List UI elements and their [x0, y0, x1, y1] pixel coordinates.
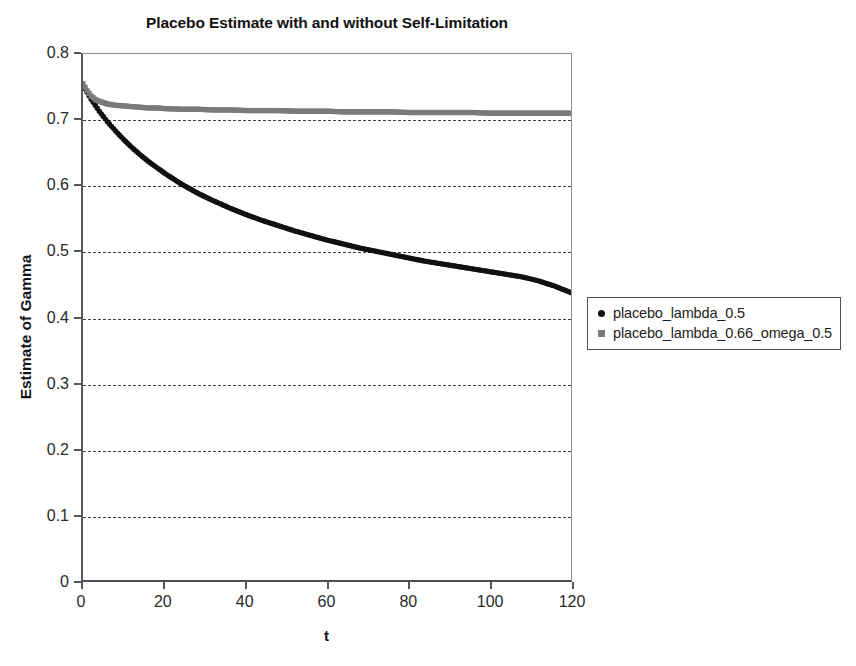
y-tick-label: 0.8 [47, 44, 69, 62]
legend-item-label: placebo_lambda_0.5 [613, 305, 745, 321]
y-tick-label: 0.1 [47, 507, 69, 525]
x-tick-label: 80 [399, 593, 417, 611]
x-tick-mark [81, 582, 83, 589]
y-tick-label: 0.7 [47, 110, 69, 128]
plot-area [81, 53, 572, 582]
chart-legend: placebo_lambda_0.5placebo_lambda_0.66_om… [587, 297, 841, 350]
y-tick-mark [74, 317, 81, 319]
y-tick-mark [74, 52, 81, 54]
square-marker-icon [594, 330, 608, 337]
x-axis-tick-group: 020406080100120 [81, 582, 572, 622]
series-2-markers [83, 81, 571, 116]
x-tick-mark [327, 582, 329, 589]
y-tick-label: 0.3 [47, 375, 69, 393]
y-tick-label: 0.5 [47, 242, 69, 260]
x-tick-label: 20 [154, 593, 172, 611]
x-tick-label: 0 [77, 593, 86, 611]
y-tick-label: 0.2 [47, 441, 69, 459]
y-tick-label: 0.4 [47, 309, 69, 327]
chart-figure: Placebo Estimate with and without Self-L… [0, 0, 856, 666]
x-tick-mark [245, 582, 247, 589]
y-tick-mark [74, 184, 81, 186]
legend-item-label: placebo_lambda_0.66_omega_0.5 [613, 325, 832, 341]
x-tick-label: 40 [236, 593, 254, 611]
x-tick-mark [490, 582, 492, 589]
y-tick-label: 0 [60, 573, 69, 591]
y-tick-mark [74, 250, 81, 252]
y-axis-tick-group: 00.10.20.30.40.50.60.70.8 [0, 53, 81, 582]
y-tick-mark [74, 581, 81, 583]
x-tick-label: 120 [559, 593, 586, 611]
x-tick-mark [572, 582, 574, 589]
legend-item[interactable]: placebo_lambda_0.5 [594, 303, 832, 323]
x-tick-mark [163, 582, 165, 589]
x-tick-label: 60 [318, 593, 336, 611]
y-tick-mark [74, 449, 81, 451]
y-tick-mark [74, 118, 81, 120]
x-axis-title: t [81, 627, 572, 644]
y-tick-mark [74, 383, 81, 385]
x-tick-label: 100 [477, 593, 504, 611]
x-tick-mark [408, 582, 410, 589]
chart-title: Placebo Estimate with and without Self-L… [81, 14, 573, 32]
y-tick-mark [74, 515, 81, 517]
legend-item[interactable]: placebo_lambda_0.66_omega_0.5 [594, 323, 832, 343]
circle-marker-icon [594, 310, 608, 317]
y-tick-label: 0.6 [47, 176, 69, 194]
data-series-layer [83, 54, 571, 580]
